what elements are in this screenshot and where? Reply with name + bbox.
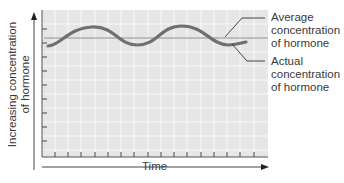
x-axis-arrow-icon — [261, 164, 269, 170]
average-label-line1: Average — [271, 11, 340, 24]
x-axis-label: Time — [142, 160, 167, 172]
actual-label: Actual concentration of hormone — [271, 55, 340, 94]
y-axis-label: Increasing concentration of hormone — [6, 15, 31, 155]
y-axis-arrow-icon — [31, 12, 37, 20]
average-label-line3: of hormone — [271, 37, 340, 50]
average-label-line2: concentration — [271, 24, 340, 37]
actual-label-line1: Actual — [271, 55, 340, 68]
average-label: Average concentration of hormone — [271, 11, 340, 50]
y-axis-label-line1: Increasing concentration — [6, 15, 19, 155]
y-axis-label-line2: of hormone — [18, 15, 31, 155]
actual-label-line2: concentration — [271, 68, 340, 81]
actual-label-line3: of hormone — [271, 81, 340, 94]
